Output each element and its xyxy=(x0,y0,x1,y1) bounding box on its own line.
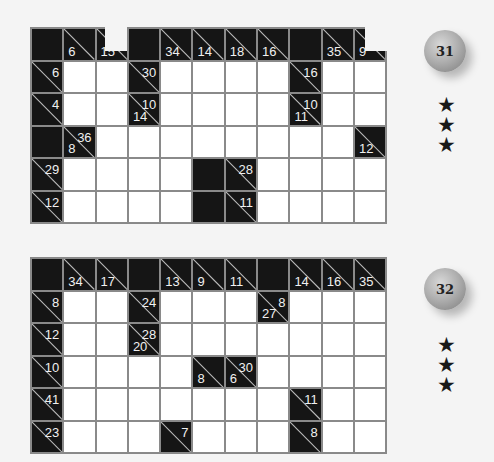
across-clue: 30 xyxy=(142,66,156,79)
down-clue: 13 xyxy=(165,275,179,288)
entry-cell[interactable] xyxy=(354,356,386,389)
entry-cell[interactable] xyxy=(160,126,192,159)
entry-cell[interactable] xyxy=(322,421,354,454)
entry-cell[interactable] xyxy=(128,158,160,191)
entry-cell[interactable] xyxy=(96,323,128,356)
down-clue: 16 xyxy=(262,45,276,58)
entry-cell[interactable] xyxy=(192,323,224,356)
entry-cell[interactable] xyxy=(225,323,257,356)
entry-cell[interactable] xyxy=(96,421,128,454)
entry-cell[interactable] xyxy=(322,356,354,389)
entry-cell[interactable] xyxy=(322,93,354,126)
entry-cell[interactable] xyxy=(128,191,160,224)
entry-cell[interactable] xyxy=(160,61,192,94)
entry-cell[interactable] xyxy=(192,291,224,324)
entry-cell[interactable] xyxy=(322,388,354,421)
clue-cell: 10 xyxy=(31,356,63,389)
entry-cell[interactable] xyxy=(96,158,128,191)
entry-cell[interactable] xyxy=(322,323,354,356)
entry-cell[interactable] xyxy=(289,158,321,191)
clue-cell: 13 xyxy=(160,258,192,291)
entry-cell[interactable] xyxy=(257,191,289,224)
entry-cell[interactable] xyxy=(225,61,257,94)
entry-cell[interactable] xyxy=(63,158,95,191)
entry-cell[interactable] xyxy=(354,191,386,224)
entry-cell[interactable] xyxy=(322,158,354,191)
entry-cell[interactable] xyxy=(322,126,354,159)
entry-cell[interactable] xyxy=(192,61,224,94)
across-clue: 28 xyxy=(239,163,253,176)
entry-cell[interactable] xyxy=(257,323,289,356)
entry-cell[interactable] xyxy=(354,323,386,356)
entry-cell[interactable] xyxy=(160,356,192,389)
entry-cell[interactable] xyxy=(192,126,224,159)
entry-cell[interactable] xyxy=(160,158,192,191)
entry-cell[interactable] xyxy=(192,421,224,454)
entry-cell[interactable] xyxy=(63,291,95,324)
entry-cell[interactable] xyxy=(96,61,128,94)
entry-cell[interactable] xyxy=(63,61,95,94)
entry-cell[interactable] xyxy=(128,388,160,421)
star-icon: ★ xyxy=(436,95,456,115)
entry-cell[interactable] xyxy=(63,356,95,389)
entry-cell[interactable] xyxy=(225,291,257,324)
entry-cell[interactable] xyxy=(128,356,160,389)
clue-cell: 34 xyxy=(160,28,192,61)
entry-cell[interactable] xyxy=(225,421,257,454)
entry-cell[interactable] xyxy=(322,291,354,324)
entry-cell[interactable] xyxy=(354,388,386,421)
entry-cell[interactable] xyxy=(63,388,95,421)
entry-cell[interactable] xyxy=(257,356,289,389)
entry-cell[interactable] xyxy=(257,126,289,159)
entry-cell[interactable] xyxy=(257,61,289,94)
entry-cell[interactable] xyxy=(96,388,128,421)
entry-cell[interactable] xyxy=(354,61,386,94)
entry-cell[interactable] xyxy=(225,388,257,421)
entry-cell[interactable] xyxy=(96,191,128,224)
entry-cell[interactable] xyxy=(289,126,321,159)
entry-cell[interactable] xyxy=(160,388,192,421)
entry-cell[interactable] xyxy=(289,323,321,356)
entry-cell[interactable] xyxy=(289,191,321,224)
entry-cell[interactable] xyxy=(128,126,160,159)
down-clue: 20 xyxy=(133,340,147,353)
clue-cell: 17 xyxy=(96,258,128,291)
entry-cell[interactable] xyxy=(257,388,289,421)
entry-cell[interactable] xyxy=(354,93,386,126)
entry-cell[interactable] xyxy=(257,158,289,191)
entry-cell[interactable] xyxy=(192,93,224,126)
entry-cell[interactable] xyxy=(289,356,321,389)
entry-cell[interactable] xyxy=(322,191,354,224)
entry-cell[interactable] xyxy=(257,421,289,454)
entry-cell[interactable] xyxy=(225,126,257,159)
entry-cell[interactable] xyxy=(96,93,128,126)
star-icon: ★ xyxy=(436,135,456,155)
entry-cell[interactable] xyxy=(160,93,192,126)
entry-cell[interactable] xyxy=(354,291,386,324)
entry-cell[interactable] xyxy=(354,421,386,454)
clue-cell: 11 xyxy=(225,258,257,291)
clue-cell: 12 xyxy=(354,126,386,159)
entry-cell[interactable] xyxy=(63,191,95,224)
across-clue: 10 xyxy=(45,361,59,374)
entry-cell[interactable] xyxy=(289,291,321,324)
clue-cell: 24 xyxy=(128,291,160,324)
down-clue: 27 xyxy=(262,307,276,320)
entry-cell[interactable] xyxy=(160,191,192,224)
entry-cell[interactable] xyxy=(63,421,95,454)
entry-cell[interactable] xyxy=(160,291,192,324)
entry-cell[interactable] xyxy=(96,356,128,389)
entry-cell[interactable] xyxy=(63,93,95,126)
entry-cell[interactable] xyxy=(225,93,257,126)
entry-cell[interactable] xyxy=(354,158,386,191)
entry-cell[interactable] xyxy=(322,61,354,94)
entry-cell[interactable] xyxy=(96,291,128,324)
entry-cell[interactable] xyxy=(192,388,224,421)
puzzle-number-ball: 32 xyxy=(424,268,466,310)
entry-cell[interactable] xyxy=(63,323,95,356)
entry-cell[interactable] xyxy=(160,323,192,356)
entry-cell[interactable] xyxy=(257,93,289,126)
clue-cell: 16 xyxy=(257,28,289,61)
entry-cell[interactable] xyxy=(96,126,128,159)
entry-cell[interactable] xyxy=(128,421,160,454)
